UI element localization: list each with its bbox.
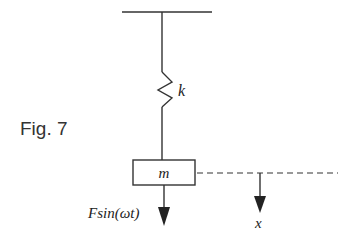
spring-k: [158, 72, 172, 107]
spring-mass-diagram: k m Fsin(ωt) x: [0, 0, 348, 238]
force-label: Fsin(ωt): [87, 205, 139, 222]
spring-label: k: [178, 82, 186, 99]
mass-label: m: [159, 165, 170, 181]
force-arrowhead-icon: [158, 207, 170, 226]
displacement-arrowhead-icon: [254, 196, 266, 213]
displacement-label: x: [254, 215, 262, 231]
